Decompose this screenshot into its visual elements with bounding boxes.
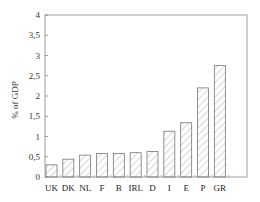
y-axis-title: % of GDP — [10, 81, 20, 119]
bar-chart: 00,511,522,533,54 UKDKNLFBIRLDIEPGR % of… — [0, 0, 260, 202]
bar-b — [113, 154, 124, 177]
x-category-label: E — [183, 183, 189, 193]
x-category-label: DK — [62, 183, 75, 193]
y-tick-label: 1,5 — [29, 111, 41, 121]
y-tick-label: 2,5 — [29, 71, 41, 81]
bar-f — [97, 154, 108, 177]
bar-e — [181, 123, 192, 177]
x-category-label: UK — [45, 183, 58, 193]
x-category-label: P — [200, 183, 205, 193]
x-category-label: I — [168, 183, 171, 193]
y-tick-label: 3 — [36, 51, 41, 61]
bars — [46, 66, 225, 177]
y-tick-label: 1 — [36, 132, 41, 142]
x-category-label: F — [99, 183, 104, 193]
bar-p — [198, 88, 209, 177]
bar-irl — [130, 153, 141, 177]
x-category-label: GR — [214, 183, 227, 193]
bar-nl — [80, 155, 91, 177]
x-category-label: IRL — [128, 183, 143, 193]
y-tick-label: 0 — [36, 172, 41, 182]
y-tick-label: 0,5 — [29, 152, 41, 162]
bar-i — [164, 131, 175, 177]
bar-d — [147, 151, 158, 177]
y-tick-label: 4 — [36, 10, 41, 20]
x-axis: UKDKNLFBIRLDIEPGR — [45, 175, 229, 193]
x-category-label: NL — [79, 183, 91, 193]
x-category-label: B — [116, 183, 122, 193]
x-category-label: D — [149, 183, 156, 193]
y-tick-label: 2 — [36, 91, 41, 101]
bar-dk — [63, 159, 74, 177]
bar-uk — [46, 165, 57, 177]
bar-gr — [214, 66, 225, 177]
y-tick-label: 3,5 — [29, 30, 41, 40]
